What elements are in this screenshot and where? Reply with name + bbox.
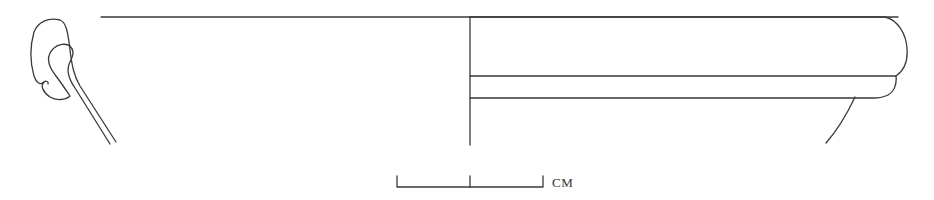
rim-section-profile (31, 19, 116, 144)
scale-unit-label: CM (552, 175, 573, 191)
pottery-drawing (0, 0, 934, 200)
rim-exterior-view (470, 17, 907, 143)
scale-bar (397, 176, 543, 187)
